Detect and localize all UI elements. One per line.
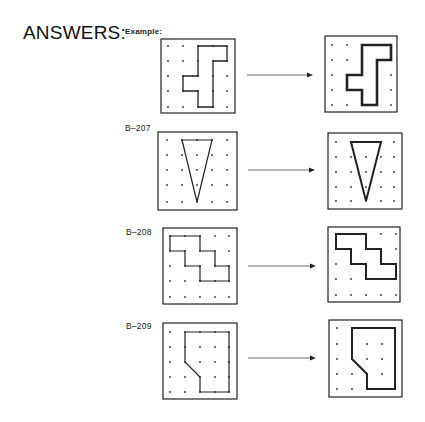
arrow-head-icon [310,356,316,361]
grid-dot [228,296,230,298]
grid-dot [169,331,171,333]
grid-dot [380,233,382,235]
grid-dot [351,388,353,390]
grid-dot [211,201,213,203]
grid-dot [350,171,352,173]
grid-dot [395,248,397,250]
grid-dot [167,106,169,108]
grid-dot [167,90,169,92]
grid-dot [182,60,184,62]
grid-dot [196,154,198,156]
grid-dot [350,200,352,202]
answer-diagrams [0,0,425,422]
grid-dot [226,90,228,92]
grid-dot [228,250,230,252]
grid-dot [226,106,228,108]
grid-dot [211,154,213,156]
grid-dot [166,169,168,171]
shape-outline-right-3 [352,328,395,389]
grid-dot [336,373,338,375]
grid-dot [214,346,216,348]
grid-dot [182,106,184,108]
grid-dot [366,358,368,360]
grid-dot [335,186,337,188]
grid-dot [199,296,201,298]
arrow-head-icon [309,168,315,173]
grid-dot [335,141,337,143]
grid-dot [390,104,392,106]
grid-dot [350,156,352,158]
grid-dot [226,201,228,203]
grid-dot [335,263,337,265]
grid-dot [365,294,367,296]
grid-dot [393,171,395,173]
grid-dot [181,184,183,186]
grid-dot [169,376,171,378]
grid-dot [351,373,353,375]
grid-dot [395,294,397,296]
geoboard-frame-right-3 [329,320,402,397]
grid-dot [381,358,383,360]
grid-dot [381,373,383,375]
shape-outline-left-2 [170,236,229,281]
grid-dot [365,186,367,188]
grid-dot [214,376,216,378]
grid-dot [336,358,338,360]
grid-dot [331,44,333,46]
grid-dot [393,141,395,143]
grid-dot [350,294,352,296]
grid-dot [346,44,348,46]
grid-dot [335,278,337,280]
grid-dot [331,104,333,106]
grid-dot [184,376,186,378]
grid-dot [226,184,228,186]
arrow-head-icon [307,73,313,78]
grid-dot [169,296,171,298]
grid-dot [214,296,216,298]
grid-dot [331,59,333,61]
shape-outline-right-2 [336,234,396,279]
grid-dot [196,184,198,186]
grid-dot [169,361,171,363]
grid-dot [169,346,171,348]
grid-dot [169,391,171,393]
grid-dot [181,201,183,203]
grid-dot [196,169,198,171]
grid-dot [380,156,382,158]
grid-dot [226,75,228,77]
grid-dot [181,169,183,171]
grid-dot [335,171,337,173]
grid-dot [346,104,348,106]
grid-dot [331,89,333,91]
shape-outline-left-3 [185,332,229,392]
grid-dot [393,156,395,158]
grid-dot [167,45,169,47]
grid-dot [184,280,186,282]
grid-dot [167,75,169,77]
shape-outline-left-0 [183,46,227,107]
grid-dot [182,45,184,47]
grid-dot [166,201,168,203]
arrow-head-icon [310,264,316,269]
shape-outline-left-1 [182,140,212,202]
shape-outline-right-0 [347,45,391,105]
grid-dot [390,89,392,91]
grid-dot [380,200,382,202]
grid-dot [390,74,392,76]
grid-dot [228,235,230,237]
grid-dot [166,184,168,186]
grid-dot [169,265,171,267]
grid-dot [226,169,228,171]
grid-dot [211,169,213,171]
grid-dot [184,296,186,298]
grid-dot [336,388,338,390]
grid-dot [365,156,367,158]
grid-dot [331,74,333,76]
grid-dot [199,346,201,348]
grid-dot [380,186,382,188]
grid-dot [346,59,348,61]
grid-dot [226,154,228,156]
grid-dot [211,184,213,186]
grid-dot [393,186,395,188]
grid-dot [380,294,382,296]
